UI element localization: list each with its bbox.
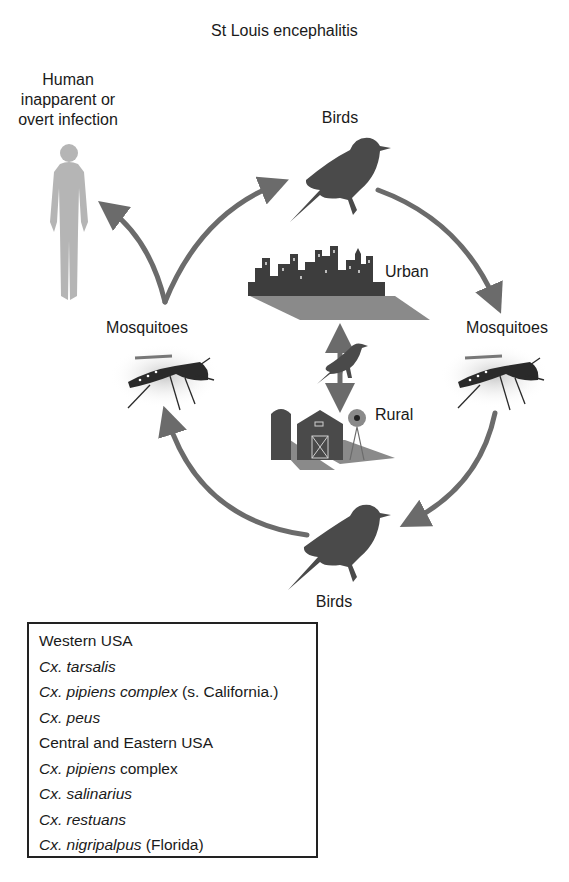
legend-line: Western USA — [39, 628, 316, 654]
arrow-mosquito-right-to-birds-bottom — [413, 413, 495, 520]
legend-line: Cx. salinarius — [39, 781, 316, 807]
legend-line: Cx. restuans — [39, 807, 316, 833]
legend-line: Cx. tarsalis — [39, 654, 316, 680]
vector-species-legend: Western USA Cx. tarsalis Cx. pipiens com… — [27, 622, 318, 858]
rural-farm-icon — [271, 409, 395, 470]
mosquito-left-icon — [110, 344, 220, 410]
arrow-mosquito-to-human — [110, 210, 165, 302]
human-figure-icon — [50, 144, 88, 300]
bird-bottom-icon — [288, 505, 391, 590]
legend-line: Cx. nigripalpus (Florida) — [39, 832, 316, 858]
arrow-birds-top-to-mosquito-right — [378, 190, 495, 300]
legend-line: Cx. peus — [39, 705, 316, 731]
legend-line: Central and Eastern USA — [39, 730, 316, 756]
cycle-diagram — [0, 0, 569, 620]
urban-skyline-icon — [248, 246, 430, 320]
legend-line: Cx. pipiens complex (s. California.) — [39, 679, 316, 705]
bird-top-icon — [290, 138, 391, 222]
mosquito-right-icon — [440, 344, 550, 410]
legend-line: Cx. pipiens complex — [39, 756, 316, 782]
